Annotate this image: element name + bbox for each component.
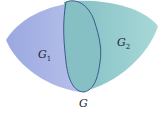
label-g2: G2 [117, 37, 130, 51]
label-g-union: G [79, 98, 88, 109]
label-g1: G1 [38, 49, 51, 63]
